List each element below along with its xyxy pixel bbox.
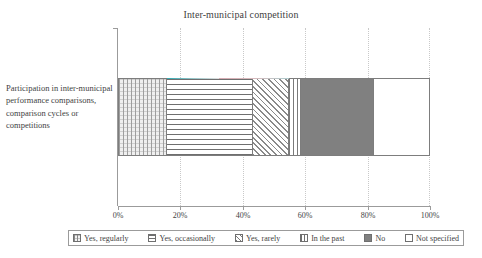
legend-label: Not specified	[416, 234, 459, 243]
legend-label: Yes, occasionally	[159, 234, 215, 243]
y-axis-tick	[113, 28, 118, 29]
segment-divider-2	[252, 79, 253, 155]
category-axis-label: Participation in inter-municipal perform…	[6, 82, 114, 132]
x-axis-line	[118, 206, 431, 207]
x-axis-label-20: 20%	[160, 211, 200, 220]
segment-divider-1	[166, 79, 167, 155]
top-edge-fringe-pink	[219, 78, 289, 79]
legend-item-not-specified[interactable]: Not specified	[405, 234, 459, 243]
legend-swatch-vertical-lines-icon	[300, 234, 308, 242]
segment-divider-5	[373, 79, 374, 155]
legend-item-in-the-past[interactable]: In the past	[300, 234, 344, 243]
legend-swatch-empty-icon	[405, 234, 413, 242]
x-axis-tick-80	[368, 206, 369, 210]
legend-label: No	[375, 234, 385, 243]
segment-divider-4	[300, 79, 301, 155]
plot-area	[118, 28, 430, 206]
legend-label: Yes, regularly	[84, 234, 129, 243]
bar-segment-yes-rarely[interactable]	[253, 79, 289, 155]
x-axis-tick-60	[305, 206, 306, 210]
top-edge-fringe-cyan	[167, 78, 219, 79]
legend-item-yes-occasionally[interactable]: Yes, occasionally	[148, 234, 215, 243]
bar-segment-yes-occasionally[interactable]	[167, 79, 253, 155]
bar-segment-yes-regularly[interactable]	[119, 79, 167, 155]
x-axis-tick-20	[180, 206, 181, 210]
x-axis-label-60: 60%	[285, 211, 325, 220]
chart-title: Inter-municipal competition	[0, 9, 482, 20]
stacked-bar	[118, 78, 430, 156]
legend-item-yes-rarely[interactable]: Yes, rarely	[235, 234, 280, 243]
x-axis-tick-100	[430, 206, 431, 210]
legend: Yes, regularly Yes, occasionally Yes, ra…	[68, 230, 464, 246]
x-axis-label-100: 100%	[410, 211, 450, 220]
x-axis-label-80: 80%	[348, 211, 388, 220]
bar-segment-no[interactable]	[301, 79, 374, 155]
x-axis-tick-40	[243, 206, 244, 210]
x-axis-tick-0	[118, 206, 119, 210]
legend-swatch-horizontal-lines-icon	[148, 234, 156, 242]
legend-label: Yes, rarely	[246, 234, 280, 243]
x-axis-label-0: 0%	[98, 211, 138, 220]
legend-item-no[interactable]: No	[364, 234, 385, 243]
legend-swatch-fine-grid-icon	[73, 234, 81, 242]
x-axis-label-40: 40%	[223, 211, 263, 220]
legend-swatch-solid-gray-icon	[364, 234, 372, 242]
segment-divider-3	[288, 79, 289, 155]
legend-item-yes-regularly[interactable]: Yes, regularly	[73, 234, 129, 243]
legend-swatch-diagonal-hatch-icon	[235, 234, 243, 242]
legend-label: In the past	[311, 234, 344, 243]
bar-segment-not-specified[interactable]	[374, 79, 429, 155]
